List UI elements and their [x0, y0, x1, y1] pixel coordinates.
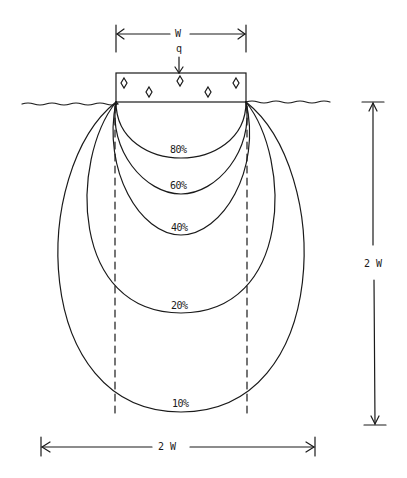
footing-width-label: W [175, 28, 181, 40]
pressure-bulb-diagram [0, 0, 407, 478]
bulb-label-60: 60% [170, 180, 187, 192]
load-arrow-icon [175, 57, 183, 73]
breadth-dimension-label: 2 W [158, 441, 176, 453]
footing [116, 73, 246, 102]
bulb-label-10: 10% [172, 398, 189, 410]
depth-dimension-label: 2 W [364, 258, 382, 270]
breadth-dimension [41, 437, 315, 456]
bulb-label-80: 80% [170, 144, 187, 156]
bulb-label-20: 20% [171, 300, 188, 312]
bulb-label-40: 40% [171, 222, 188, 234]
load-label: q [176, 43, 182, 55]
